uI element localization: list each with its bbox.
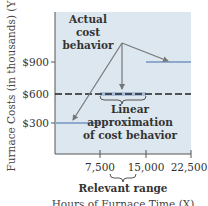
y-tick-300: $300 bbox=[22, 117, 49, 129]
x-tick-22500: 22,500 bbox=[171, 161, 208, 173]
y-axis-title: Furnace Costs (in thousands) (Y) bbox=[5, 0, 17, 171]
y-tick-900: $900 bbox=[22, 56, 49, 68]
linear-approx-label-3: of cost behavior bbox=[83, 129, 178, 141]
x-axis-title: Hours of Furnace Time (X) bbox=[52, 198, 195, 206]
actual-cost-label-1: Actual bbox=[68, 13, 107, 25]
linear-approx-label-1: Linear bbox=[111, 103, 149, 115]
actual-cost-label-2: cost bbox=[76, 26, 100, 38]
y-tick-600: $600 bbox=[22, 88, 49, 100]
x-tick-15000: 15,000 bbox=[128, 161, 165, 173]
actual-cost-label-3: behavior bbox=[62, 39, 114, 51]
x-tick-7500: 7,500 bbox=[85, 161, 115, 173]
linear-approx-label-2: approximation bbox=[87, 116, 173, 128]
relevant-range-label: Relevant range bbox=[78, 182, 167, 194]
cost-behavior-chart: $900 $600 $300 7,500 15,000 22,500 Actua… bbox=[0, 0, 208, 206]
relevant-range-brace bbox=[110, 174, 136, 182]
